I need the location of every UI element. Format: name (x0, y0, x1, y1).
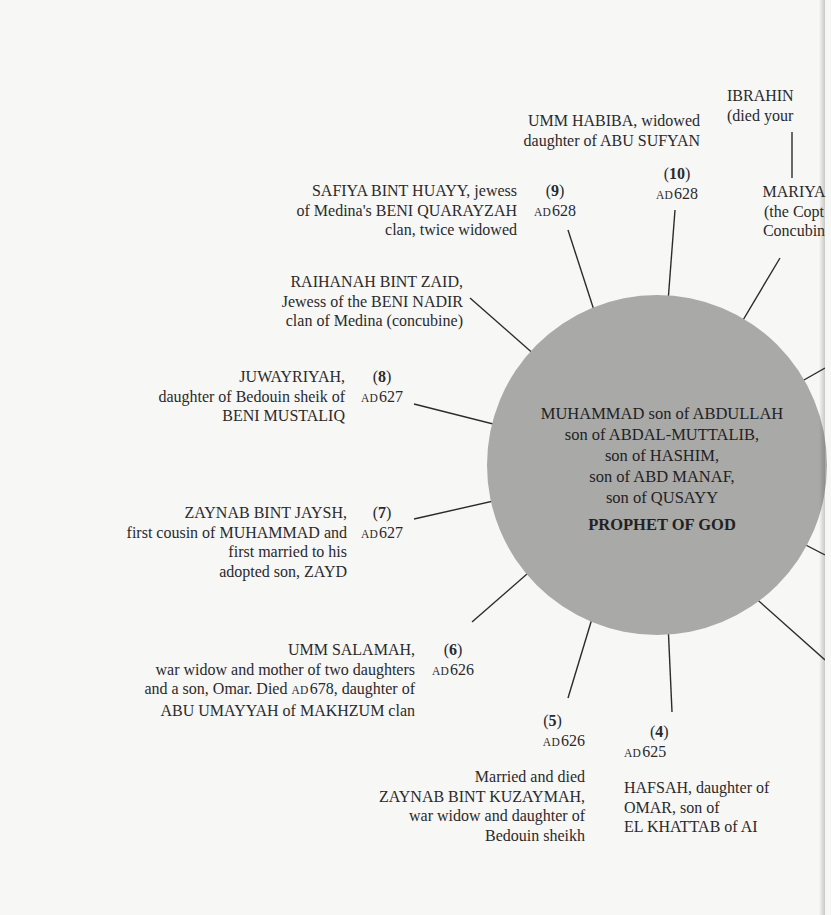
node-text: war widow and mother of two daughters (60, 660, 415, 680)
node-text: Jewess of the BENI NADIR (200, 292, 463, 312)
node-text: (died your (727, 106, 794, 126)
node-wife-10-marker: (10) AD628 (642, 164, 712, 205)
marriage-number: (9) (522, 181, 588, 201)
center-node-muhammad: MUHAMMAD son of ABDULLAH son of ABDAL-MU… (497, 403, 827, 535)
marriage-date: AD628 (642, 184, 712, 206)
node-text: UMM HABIBA, widowed (470, 111, 700, 131)
node-wife-5-marker: (5) AD626 (520, 711, 585, 752)
node-text: clan, twice widowed (200, 220, 517, 240)
marriage-number: (4) (624, 722, 669, 742)
marriage-number: (7) (354, 503, 410, 523)
node-wife-4-marker: (4) AD625 (624, 722, 669, 763)
node-wife-4-text: HAFSAH, daughter of OMAR, son of EL KHAT… (624, 778, 769, 837)
page-edge-shadow (819, 0, 825, 915)
node-text: daughter of ABU SUFYAN (470, 131, 700, 151)
node-wife-9-marker: (9) AD628 (522, 181, 588, 222)
marriage-number: (5) (520, 711, 585, 731)
node-text: (the Copt (744, 202, 831, 222)
node-text: Married and died (280, 767, 585, 787)
node-wife-8-text: JUWAYRIYAH, daughter of Bedouin sheik of… (60, 367, 345, 426)
node-text: ZAYNAB BINT JAYSH, (40, 503, 347, 523)
node-text: Concubin (744, 221, 831, 241)
node-text: and a son, Omar. Died AD678, daughter of (60, 679, 415, 701)
center-line: MUHAMMAD son of ABDULLAH (497, 403, 827, 424)
center-line: son of ABD MANAF, (497, 466, 827, 487)
marriage-date: AD628 (522, 201, 588, 223)
marriage-date: AD627 (354, 523, 410, 545)
node-text: adopted son, ZAYD (40, 562, 347, 582)
node-wife-8-marker: (8) AD627 (354, 367, 410, 408)
node-wife-6-marker: (6) AD626 (424, 640, 482, 681)
marriage-date: AD626 (424, 660, 482, 682)
node-text: first cousin of MUHAMMAD and (40, 523, 347, 543)
node-mariya: MARIYA (the Copt Concubin (744, 182, 831, 241)
node-wife-7-text: ZAYNAB BINT JAYSH, first cousin of MUHAM… (40, 503, 347, 581)
marriage-number: (6) (424, 640, 482, 660)
node-wife-10-text: UMM HABIBA, widowed daughter of ABU SUFY… (470, 111, 700, 150)
node-text: MARIYA (744, 182, 831, 202)
node-ibrahim: IBRAHIN (died your (727, 86, 794, 125)
node-wife-7-marker: (7) AD627 (354, 503, 410, 544)
node-text: ZAYNAB BINT KUZAYMAH, (280, 787, 585, 807)
node-text: clan of Medina (concubine) (200, 311, 463, 331)
center-line: son of HASHIM, (497, 445, 827, 466)
marriage-date: AD627 (354, 387, 410, 409)
node-text: war widow and daughter of (280, 806, 585, 826)
node-text: EL KHATTAB of AI (624, 817, 769, 837)
node-wife-6-text: UMM SALAMAH, war widow and mother of two… (60, 640, 415, 720)
node-wife-5-text: Married and died ZAYNAB BINT KUZAYMAH, w… (280, 767, 585, 845)
marriage-date: AD626 (520, 731, 585, 753)
node-text: HAFSAH, daughter of (624, 778, 769, 798)
node-text: SAFIYA BINT HUAYY, jewess (200, 181, 517, 201)
node-text: BENI MUSTALIQ (60, 406, 345, 426)
node-text: ABU UMAYYAH of MAKHZUM clan (60, 701, 415, 721)
center-title: PROPHET OF GOD (497, 514, 827, 535)
node-text: JUWAYRIYAH, (60, 367, 345, 387)
marriage-number: (10) (642, 164, 712, 184)
node-text: Bedouin sheikh (280, 826, 585, 846)
center-line: son of QUSAYY (497, 487, 827, 508)
node-text: UMM SALAMAH, (60, 640, 415, 660)
center-line: son of ABDAL-MUTTALIB, (497, 424, 827, 445)
node-text: IBRAHIN (727, 86, 794, 106)
node-raihanah: RAIHANAH BINT ZAID, Jewess of the BENI N… (200, 272, 463, 331)
node-text: OMAR, son of (624, 798, 769, 818)
node-text: of Medina's BENI QUARAYZAH (200, 201, 517, 221)
node-text: RAIHANAH BINT ZAID, (200, 272, 463, 292)
node-text: first married to his (40, 542, 347, 562)
node-wife-9-text: SAFIYA BINT HUAYY, jewess of Medina's BE… (200, 181, 517, 240)
marriage-number: (8) (354, 367, 410, 387)
node-text: daughter of Bedouin sheik of (60, 387, 345, 407)
marriage-date: AD625 (624, 742, 669, 764)
